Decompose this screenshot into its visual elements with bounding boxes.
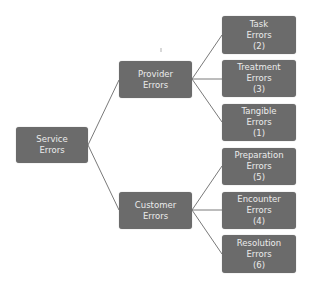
node-encounter-errors: Encounter Errors (4)	[222, 192, 296, 229]
node-resolution-errors: Resolution Errors (6)	[222, 235, 296, 273]
node-label: Service	[36, 134, 67, 145]
node-count: (2)	[253, 41, 265, 52]
node-label: Errors	[246, 73, 271, 84]
connector-root-provider	[88, 80, 119, 145]
node-treatment-errors: Treatment Errors (3)	[222, 60, 296, 97]
node-label: Encounter	[237, 194, 280, 205]
node-label: Errors	[246, 161, 271, 172]
node-label: Errors	[246, 117, 271, 128]
node-provider-errors: Provider Errors	[119, 61, 192, 98]
node-count: (1)	[253, 128, 265, 139]
node-label: Errors	[246, 30, 271, 41]
node-label: Provider	[138, 69, 173, 80]
connector-provider-task	[192, 35, 222, 79]
node-label: Preparation	[234, 150, 283, 161]
node-count: (3)	[253, 84, 265, 95]
node-count: (6)	[253, 260, 265, 271]
node-label: Customer	[135, 200, 176, 211]
node-label: Errors	[246, 249, 271, 260]
connector-root-customer	[88, 145, 119, 210]
node-label: Tangible	[241, 106, 276, 117]
node-task-errors: Task Errors (2)	[222, 16, 296, 54]
connector-customer-preparation	[192, 166, 222, 210]
node-service-errors: Service Errors	[16, 127, 88, 163]
node-label: Errors	[143, 211, 168, 222]
node-label: Errors	[246, 205, 271, 216]
node-label: Errors	[143, 80, 168, 91]
connector-provider-tangible	[192, 79, 222, 122]
node-label: Task	[250, 19, 268, 30]
node-preparation-errors: Preparation Errors (5)	[222, 148, 296, 185]
node-label: Treatment	[237, 62, 280, 73]
node-count: (5)	[253, 172, 265, 183]
node-label: Resolution	[237, 238, 281, 249]
node-tangible-errors: Tangible Errors (1)	[222, 104, 296, 141]
node-label: Errors	[39, 145, 64, 156]
node-count: (4)	[253, 216, 265, 227]
service-errors-tree-diagram: Service Errors Provider Errors Customer …	[0, 0, 311, 287]
node-customer-errors: Customer Errors	[119, 192, 192, 229]
scan-artifact	[160, 48, 162, 52]
connector-customer-resolution	[192, 210, 222, 254]
